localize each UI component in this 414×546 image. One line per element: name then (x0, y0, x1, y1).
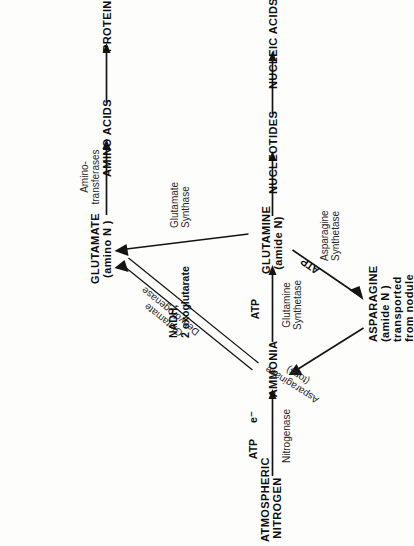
cofactor-atp-nitrogenase: ATP (246, 434, 258, 464)
enzyme-amino-transferases: Amino- transferases (78, 139, 100, 215)
node-atmospheric-nitrogen: ATMOSPHERIC NITROGEN (258, 474, 282, 542)
enzyme-glutamate-synthase: Glutamate Synthase (168, 166, 190, 228)
enzyme-nitrogenase: Nitrogenase (280, 396, 291, 476)
node-nucleic-acids: NUCLEIC ACIDS (266, 1, 278, 89)
node-proteins: PROTEINS (100, 2, 112, 52)
enzyme-glutamine-synthetase: Glutamine Synthetase (280, 270, 302, 340)
cofactor-nadh-oxoglutarate: NADH, 2 oxoglutarate (166, 246, 190, 338)
enzyme-asparagine-synthetase: Asparagine Synthetase (318, 191, 340, 261)
node-glutamate: GLUTAMATE (amino N ) (88, 214, 112, 284)
cofactor-electrons: e⁻ (246, 406, 258, 428)
cofactor-atp-glutamine-synthetase: ATP (248, 294, 260, 324)
node-amino-acids: AMINO ACIDS (100, 101, 112, 177)
node-asparagine: ASPARAGINE (amide N ) transported from n… (366, 260, 414, 342)
node-nucleotides: NUCLEOTIDES (266, 114, 278, 194)
node-glutamine: GLUTAMINE (amide N) (259, 212, 283, 274)
arrow-ammonia-to-glutamine (268, 265, 276, 342)
arrow-amino-acids-to-proteins (102, 43, 110, 103)
